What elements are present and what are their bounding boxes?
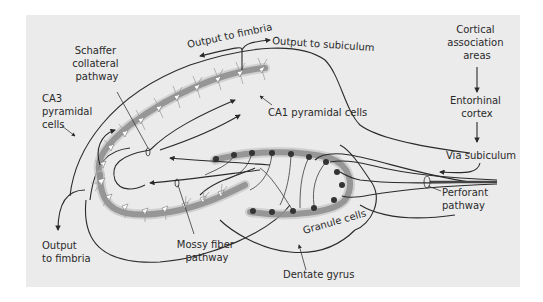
output-fimbria-bottom-arrow xyxy=(58,190,85,230)
cortical-label: Cortical association areas xyxy=(447,24,506,61)
dentate-leader xyxy=(299,245,306,270)
output-fimbria-top-label: Output to fimbria xyxy=(186,21,273,50)
output-subiculum-label: Output to subiculum xyxy=(272,35,375,53)
entorhinal-label: Entorhinal cortex xyxy=(450,95,504,119)
schaffer-label: Schaffer collateral pathway xyxy=(72,45,122,82)
ca3-loop xyxy=(114,150,150,189)
ca3-label: CA3 pyramidal cells xyxy=(42,93,95,130)
schaffer-ring xyxy=(146,148,150,156)
hippocampus-diagram: Schaffer collateral pathway Output to fi… xyxy=(0,0,543,302)
mossy-label: Mossy fiber pathway xyxy=(177,239,237,263)
bottom-curve xyxy=(360,205,455,218)
via-subiculum-label: Via subiculum xyxy=(446,150,516,161)
output-fimbria-arrow xyxy=(200,48,242,70)
perforant-label: Perforant pathway xyxy=(442,187,491,211)
dentate-label: Dentate gyrus xyxy=(283,269,354,280)
ca1-label: CA1 pyramidal cells xyxy=(268,107,367,118)
ca1-leader xyxy=(260,96,272,105)
via-subiculum-arrow xyxy=(440,163,480,173)
output-fimbria-bottom-label: Output to fimbria xyxy=(42,240,91,264)
